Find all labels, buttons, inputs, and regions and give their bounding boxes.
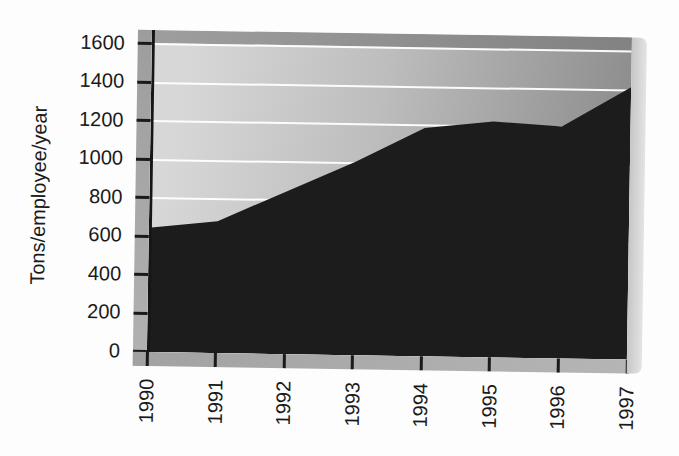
y-axis-tick-mark — [134, 311, 148, 314]
y-tick-label: 1600 — [53, 30, 125, 53]
y-axis-tick-mark — [134, 273, 148, 276]
x-axis-tick-mark — [419, 356, 422, 370]
y-tick-label: 1400 — [52, 68, 124, 91]
y-tick-label: 600 — [50, 222, 122, 245]
x-tick-label: 1994 — [409, 382, 432, 428]
x-axis-tick-mark — [351, 355, 354, 369]
y-axis-title: Tons/employee/year — [26, 95, 51, 295]
y-tick-label: 200 — [48, 299, 120, 322]
x-tick-label: 1995 — [478, 383, 501, 429]
y-axis-tick-mark — [136, 157, 150, 160]
y-tick-label: 0 — [48, 338, 120, 361]
x-tick-label: 1996 — [546, 384, 569, 430]
x-axis-tick-mark — [145, 352, 148, 366]
y-tick-label: 1000 — [51, 145, 123, 168]
x-tick-label: 1990 — [135, 378, 158, 424]
y-axis-tick-mark — [137, 119, 151, 122]
x-axis-tick-mark — [557, 358, 560, 372]
x-axis-tick-mark — [282, 354, 285, 368]
y-axis-tick-labels: 1600 1400 1200 1000 800 600 400 200 0 — [0, 0, 679, 8]
x-axis-tick-labels: 1990 1991 1992 1993 1994 1995 1996 1997 — [0, 0, 679, 8]
area-series — [147, 30, 632, 359]
y-axis-tick-mark — [138, 42, 152, 45]
plot-area — [147, 30, 632, 359]
y-tick-label: 1200 — [51, 107, 123, 130]
x-tick-label: 1991 — [204, 379, 227, 425]
x-tick-label: 1993 — [341, 381, 364, 427]
chart-page: Tons/employee/year 1600 1400 1200 1000 8… — [0, 0, 679, 456]
x-axis-tick-mark — [214, 353, 217, 367]
x-axis-tick-mark — [488, 357, 491, 371]
x-tick-label: 1992 — [272, 380, 295, 426]
y-axis-tick-mark — [135, 196, 149, 199]
y-tick-label: 800 — [50, 184, 122, 207]
y-tick-label: 400 — [49, 261, 121, 284]
y-axis-tick-mark — [137, 80, 151, 83]
productivity-area-chart: Tons/employee/year 1600 1400 1200 1000 8… — [0, 0, 679, 456]
area-polygon — [147, 80, 631, 360]
x-tick-label: 1997 — [615, 385, 638, 431]
y-axis-tick-mark — [135, 234, 149, 237]
